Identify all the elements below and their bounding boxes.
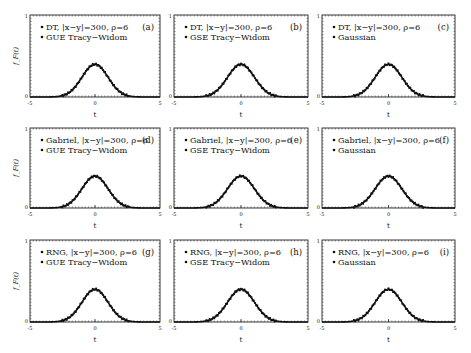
theory-curve [174,176,308,208]
panel-tag: (d) [142,135,154,145]
x-tick-label: -5 [28,211,33,217]
panel-tag: (g) [142,247,154,257]
x-axis-label: t [94,222,97,230]
legend-marker-data [41,139,44,142]
x-axis-label: t [240,222,243,230]
x-axis-label: t [387,111,390,119]
panel-b: DT, |x−y|=300, ρ=6GSE Tracy−Widom(b)10-5… [169,13,310,119]
legend: DT, |x−y|=300, ρ=6GSE Tracy−Widom [185,22,273,42]
y-tick-label: 1 [25,238,28,244]
legend-entry-theory: Gaussian [338,145,377,155]
legend-marker-data [333,251,336,254]
panel-d: Gabriel, |x−y|=300, ρ=6GUE Tracy−Widom(d… [12,126,162,230]
x-tick-label: 5 [158,211,161,217]
panel-g: RNG, |x−y|=300, ρ=6GUE Tracy−Widom(g)10-… [12,238,162,344]
panel-i: RNG, |x−y|=300, ρ=6Gaussian(i)10-505t [317,238,457,344]
x-tick-label: 5 [158,325,161,331]
x-tick-label: 0 [387,211,390,217]
x-tick-label: -5 [320,100,325,106]
x-tick-label: 5 [453,325,456,331]
legend: RNG, |x−y|=300, ρ=6Gaussian [333,247,429,267]
x-tick-label: 0 [93,100,96,106]
legend-entry-theory: GUE Tracy−Widom [46,257,127,267]
panel-tag: (c) [438,22,449,32]
y-tick-label: 0 [25,93,28,99]
y-tick-label: 0 [25,204,28,210]
y-axis-label: f_F(t) [12,159,20,178]
x-axis-label: t [240,111,243,119]
legend-marker-data [185,139,188,142]
legend-entry-theory: GSE Tracy−Widom [190,257,270,267]
panel-tag: (i) [440,247,449,257]
legend: DT, |x−y|=300, ρ=6GUE Tracy−Widom [41,22,129,42]
legend-entry-data: RNG, |x−y|=300, ρ=6 [190,247,281,257]
legend-marker-data [333,139,336,142]
legend: Gabriel, |x−y|=300, ρ=6GUE Tracy−Widom [41,135,148,155]
panel-tag: (e) [290,135,302,145]
panel-f: Gabriel, |x−y|=300, ρ=6Gaussian(f)10-505… [317,126,457,230]
legend-marker-data [41,251,44,254]
y-tick-label: 1 [25,126,28,132]
panel-h: RNG, |x−y|=300, ρ=6GSE Tracy−Widom(h)10-… [169,238,310,344]
x-axis-label: t [94,111,97,119]
theory-curve [30,64,160,97]
legend-marker-data [185,251,188,254]
x-tick-label: -5 [28,325,33,331]
legend-marker-theory [41,261,44,264]
theory-curve [322,176,455,208]
panel-tag: (b) [290,22,302,32]
x-tick-label: 5 [158,100,161,106]
legend-entry-data: RNG, |x−y|=300, ρ=6 [338,247,429,257]
x-axis-label: t [240,336,243,344]
x-tick-label: -5 [28,100,33,106]
x-axis-label: t [387,336,390,344]
y-tick-label: 0 [169,204,172,210]
y-axis-label: f_F(t) [12,47,20,66]
y-tick-label: 1 [169,238,172,244]
x-tick-label: -5 [172,325,177,331]
legend-entry-data: DT, |x−y|=300, ρ=6 [46,22,128,32]
y-tick-label: 0 [317,204,320,210]
legend-entry-data: DT, |x−y|=300, ρ=6 [338,22,420,32]
y-axis-label: f_F(t) [12,272,20,291]
legend-entry-theory: GUE Tracy−Widom [46,32,127,42]
theory-curve [30,176,160,208]
legend-entry-theory: Gaussian [338,257,377,267]
panel-tag: (a) [142,22,154,32]
y-tick-label: 1 [25,13,28,19]
x-tick-label: 5 [453,100,456,106]
x-tick-label: 0 [239,211,242,217]
legend-marker-theory [333,36,336,39]
legend-entry-theory: GSE Tracy−Widom [190,145,270,155]
legend: RNG, |x−y|=300, ρ=6GUE Tracy−Widom [41,247,137,267]
legend-marker-theory [41,36,44,39]
x-tick-label: 5 [453,211,456,217]
x-tick-label: 0 [93,211,96,217]
x-tick-label: 0 [239,325,242,331]
y-tick-label: 1 [317,238,320,244]
y-tick-label: 0 [169,318,172,324]
x-axis-label: t [94,336,97,344]
legend-marker-theory [333,149,336,152]
panel-c: DT, |x−y|=300, ρ=6Gaussian(c)10-505t [317,13,457,119]
panel-tag: (h) [290,247,302,257]
legend-entry-theory: GUE Tracy−Widom [46,145,127,155]
legend-entry-data: RNG, |x−y|=300, ρ=6 [46,247,137,257]
legend-entry-data: DT, |x−y|=300, ρ=6 [190,22,272,32]
theory-curve [174,64,308,97]
legend: Gabriel, |x−y|=300, ρ=6Gaussian [333,135,440,155]
legend-marker-theory [185,149,188,152]
theory-curve [174,289,308,322]
y-tick-label: 1 [169,126,172,132]
legend-marker-theory [333,261,336,264]
y-tick-label: 1 [317,13,320,19]
y-tick-label: 0 [317,93,320,99]
x-tick-label: 0 [93,325,96,331]
theory-curve [322,289,455,322]
data-points [60,288,129,323]
data-points [60,63,129,97]
legend-entry-theory: Gaussian [338,32,377,42]
y-tick-label: 0 [169,93,172,99]
legend-entry-data: Gabriel, |x−y|=300, ρ=6 [46,135,148,145]
legend-marker-data [333,26,336,29]
